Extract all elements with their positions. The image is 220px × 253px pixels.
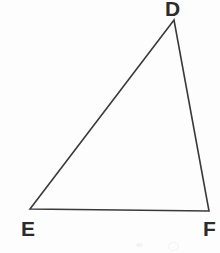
- triangle-def-shape: [30, 20, 209, 211]
- triangle-diagram: [0, 0, 220, 253]
- vertex-label-f: F: [203, 218, 216, 239]
- geometry-figure-canvas: D E F: [0, 0, 220, 253]
- vertex-label-e: E: [21, 218, 35, 239]
- vertex-label-d: D: [165, 0, 180, 19]
